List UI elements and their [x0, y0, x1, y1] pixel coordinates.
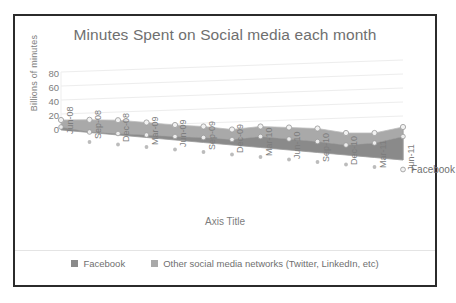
chart-canvas: Minutes Spent on Social media each month…	[15, 16, 435, 285]
x-tick-dec-10: Dec-10	[349, 136, 359, 165]
marker-facebook-endpoint	[401, 167, 406, 172]
x-tick-mar-09: Mar-09	[150, 116, 160, 145]
plot-area	[15, 16, 435, 285]
legend-label-other-social: Other social media networks (Twitter, Li…	[163, 258, 378, 269]
x-tick-dec-08: Dec-08	[121, 113, 131, 142]
x-tick-sep-09: Sep-09	[207, 121, 217, 150]
legend-swatch-facebook	[71, 260, 78, 267]
legend-swatch-other-social	[151, 260, 158, 267]
x-tick-dec-09: Dec-09	[235, 124, 245, 153]
x-axis-title: Axis Title	[15, 216, 435, 227]
x-tick-jun-10: Jun-10	[292, 131, 302, 159]
chart-legend: Facebook Other social media networks (Tw…	[15, 258, 435, 269]
chart-frame: Minutes Spent on Social media each month…	[13, 14, 437, 287]
x-tick-jun-09: Jun-09	[178, 119, 188, 147]
legend-divider	[15, 250, 435, 251]
x-tick-sep-10: Sep-10	[321, 133, 331, 162]
x-tick-mar-11: Mar-11	[378, 140, 388, 168]
x-tick-sep-08: Sep-08	[93, 110, 103, 139]
legend-label-facebook: Facebook	[83, 258, 125, 269]
legend-item-facebook[interactable]: Facebook	[71, 258, 125, 269]
x-tick-mar-10: Mar-10	[264, 127, 274, 156]
legend-item-other-social[interactable]: Other social media networks (Twitter, Li…	[151, 258, 378, 269]
gridlines	[61, 60, 403, 128]
x-tick-jun-08: Jun-08	[65, 106, 75, 134]
series-label-facebook: Facebook	[411, 164, 455, 175]
